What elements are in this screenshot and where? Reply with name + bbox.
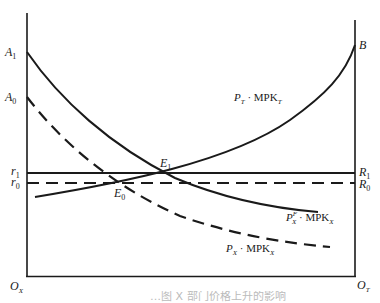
label-origin-x: OX (10, 279, 24, 295)
specific-factors-diagram: A1 A0 r1 r0 B R1 R0 E1 E0 PT · MPKT PFX … (0, 0, 380, 303)
figure-caption-cropped: …图 X 部门价格上升的影响 (150, 291, 330, 303)
label-a1: A1 (4, 45, 16, 61)
pt-mpkt-curve (35, 45, 355, 197)
label-b: B (359, 38, 367, 52)
label-origin-t: OT (357, 278, 371, 294)
label-e0: E0 (113, 186, 125, 202)
axes (26, 13, 356, 277)
label-pt-mpkt: PT · MPKT (233, 91, 283, 106)
label-px-mpkx: PX · MPKX (225, 242, 275, 257)
label-pxf-mpkx: PFX · MPKX (285, 210, 334, 226)
label-a0: A0 (4, 90, 16, 106)
label-e1: E1 (159, 156, 171, 172)
pxf-mpkx-curve (27, 52, 318, 212)
